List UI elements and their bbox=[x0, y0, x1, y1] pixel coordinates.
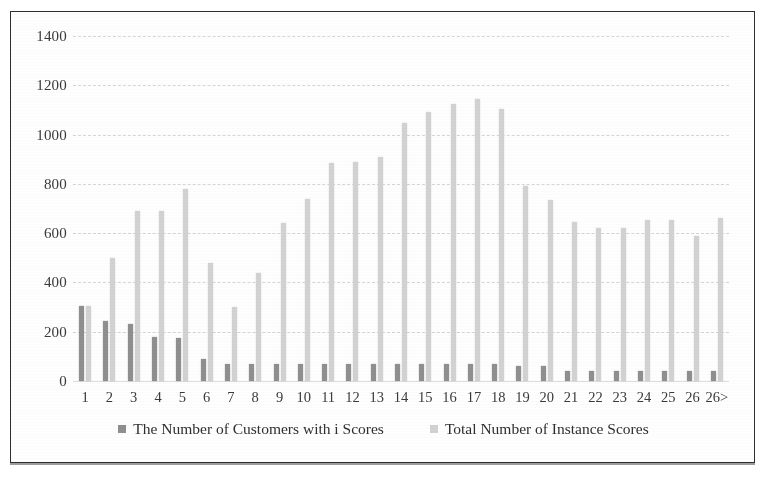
bar-series-1 bbox=[346, 364, 351, 381]
bar-series-2 bbox=[451, 104, 456, 381]
y-axis-tick-label: 800 bbox=[15, 175, 67, 192]
x-axis-tick-label: 7 bbox=[219, 385, 243, 409]
x-axis-tick-label: 6 bbox=[194, 385, 218, 409]
bar-series-2 bbox=[596, 228, 601, 381]
x-axis-tick-label: 24 bbox=[632, 385, 656, 409]
bar-group bbox=[559, 36, 583, 381]
bar-group bbox=[680, 36, 704, 381]
bar-series-1 bbox=[103, 321, 108, 381]
bar-series-2 bbox=[110, 258, 115, 381]
bar-series-1 bbox=[711, 371, 716, 381]
x-axis-tick-label: 1 bbox=[73, 385, 97, 409]
bar-series-1 bbox=[516, 366, 521, 381]
bar-series-2 bbox=[523, 186, 528, 381]
bar-series-1 bbox=[225, 364, 230, 381]
y-axis-tick-label: 1400 bbox=[15, 28, 67, 45]
x-axis-tick-label: 23 bbox=[608, 385, 632, 409]
bar-series-2 bbox=[718, 218, 723, 381]
bar-group bbox=[73, 36, 97, 381]
legend-swatch-icon bbox=[430, 425, 438, 433]
y-axis-tick-label: 0 bbox=[15, 373, 67, 390]
x-axis: 1234567891011121314151617181920212223242… bbox=[73, 385, 729, 409]
plot-area bbox=[73, 36, 729, 381]
bar-series-1 bbox=[687, 371, 692, 381]
y-axis-tick-label: 600 bbox=[15, 225, 67, 242]
bar-series-2 bbox=[548, 200, 553, 381]
legend-item[interactable]: The Number of Customers with i Scores bbox=[118, 420, 384, 438]
bar-group bbox=[608, 36, 632, 381]
bar-series-2 bbox=[378, 157, 383, 381]
x-axis-tick-label: 17 bbox=[462, 385, 486, 409]
bar-series-2 bbox=[572, 222, 577, 381]
bar-series-1 bbox=[176, 338, 181, 381]
bar-series-1 bbox=[565, 371, 570, 381]
bar-group bbox=[462, 36, 486, 381]
bar-series-2 bbox=[329, 163, 334, 381]
plot-wrapper: 1400120010008006004002000 12345678910111… bbox=[11, 12, 756, 464]
bar-series-1 bbox=[201, 359, 206, 381]
bar-group bbox=[219, 36, 243, 381]
chart-frame: 1400120010008006004002000 12345678910111… bbox=[10, 11, 755, 463]
x-axis-tick-label: 26> bbox=[705, 385, 729, 409]
bar-group bbox=[122, 36, 146, 381]
x-axis-tick-label: 11 bbox=[316, 385, 340, 409]
bar-group bbox=[389, 36, 413, 381]
bar-group bbox=[340, 36, 364, 381]
x-axis-tick-label: 4 bbox=[146, 385, 170, 409]
bar-group bbox=[656, 36, 680, 381]
legend-item[interactable]: Total Number of Instance Scores bbox=[430, 420, 649, 438]
x-axis-tick-label: 13 bbox=[365, 385, 389, 409]
bar-group bbox=[146, 36, 170, 381]
x-axis-tick-label: 26 bbox=[680, 385, 704, 409]
x-axis-tick-label: 5 bbox=[170, 385, 194, 409]
bar-group bbox=[632, 36, 656, 381]
bar-group bbox=[535, 36, 559, 381]
bar-series-1 bbox=[638, 371, 643, 381]
bar-columns bbox=[73, 36, 729, 381]
bar-series-2 bbox=[208, 263, 213, 381]
bar-group bbox=[243, 36, 267, 381]
bar-group bbox=[583, 36, 607, 381]
bar-series-2 bbox=[669, 220, 674, 381]
x-axis-tick-label: 25 bbox=[656, 385, 680, 409]
bar-series-2 bbox=[281, 223, 286, 381]
x-axis-tick-label: 8 bbox=[243, 385, 267, 409]
bar-series-1 bbox=[298, 364, 303, 381]
bar-series-1 bbox=[371, 364, 376, 381]
y-axis-tick-label: 1200 bbox=[15, 77, 67, 94]
chart-figure: 1400120010008006004002000 12345678910111… bbox=[0, 0, 767, 477]
bar-series-1 bbox=[444, 364, 449, 381]
x-axis-tick-label: 3 bbox=[122, 385, 146, 409]
bar-series-2 bbox=[499, 109, 504, 381]
x-axis-tick-label: 9 bbox=[267, 385, 291, 409]
x-axis-tick-label: 19 bbox=[510, 385, 534, 409]
bar-series-1 bbox=[128, 324, 133, 381]
bar-series-2 bbox=[694, 236, 699, 381]
x-axis-tick-label: 21 bbox=[559, 385, 583, 409]
bar-series-2 bbox=[183, 189, 188, 381]
bar-series-1 bbox=[468, 364, 473, 381]
bar-series-1 bbox=[662, 371, 667, 381]
bar-group bbox=[510, 36, 534, 381]
bar-group bbox=[316, 36, 340, 381]
bar-series-2 bbox=[232, 307, 237, 381]
bar-series-1 bbox=[79, 306, 84, 381]
bar-series-2 bbox=[621, 228, 626, 381]
bar-series-2 bbox=[305, 199, 310, 381]
x-axis-tick-label: 18 bbox=[486, 385, 510, 409]
x-axis-tick-label: 16 bbox=[437, 385, 461, 409]
bar-series-1 bbox=[614, 371, 619, 381]
x-axis-tick-label: 2 bbox=[97, 385, 121, 409]
y-axis-tick-label: 200 bbox=[15, 323, 67, 340]
legend-swatch-icon bbox=[118, 425, 126, 433]
bar-series-1 bbox=[322, 364, 327, 381]
bar-series-2 bbox=[402, 123, 407, 381]
bar-series-1 bbox=[541, 366, 546, 381]
bar-series-2 bbox=[426, 112, 431, 381]
bar-series-1 bbox=[395, 364, 400, 381]
bar-series-2 bbox=[475, 99, 480, 381]
y-axis: 1400120010008006004002000 bbox=[11, 36, 67, 381]
bar-series-2 bbox=[159, 211, 164, 381]
bar-series-2 bbox=[256, 273, 261, 381]
x-axis-tick-label: 10 bbox=[292, 385, 316, 409]
